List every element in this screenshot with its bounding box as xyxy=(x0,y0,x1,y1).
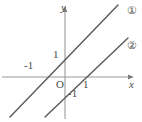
y-tick-label-1: 1 xyxy=(53,49,59,60)
curve-label-2: ② xyxy=(127,40,137,51)
curve-label-1: ① xyxy=(127,5,137,16)
y-tick-label-neg1: -1 xyxy=(68,88,77,99)
x-tick-label-neg1: -1 xyxy=(24,60,33,71)
origin-label: O xyxy=(56,79,64,90)
y-axis-label: y xyxy=(61,2,66,13)
x-tick-label-1: 1 xyxy=(83,79,89,90)
graph-figure: y x O 1 -1 1 -1 ① ② xyxy=(0,0,142,122)
plot-canvas xyxy=(0,0,142,122)
x-axis-label: x xyxy=(129,79,134,90)
